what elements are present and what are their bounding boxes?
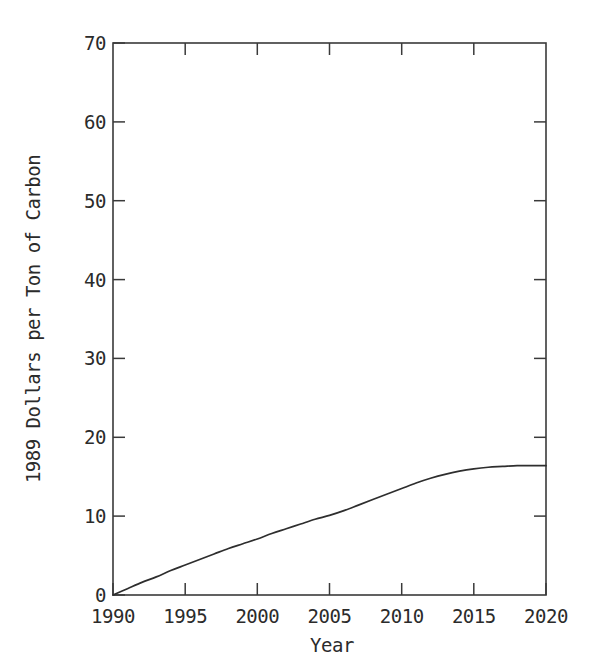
x-tick-label: 2015: [452, 605, 496, 627]
x-axis-top-ticks: [185, 43, 474, 55]
y-tick-label: 0: [95, 584, 106, 606]
y-tick-label: 60: [84, 111, 106, 133]
y-tick-labels: 0 10 20 30 40 50 60 70: [84, 32, 106, 606]
y-tick-label: 70: [84, 32, 106, 54]
x-tick-label: 1995: [163, 605, 207, 627]
data-series-line: [113, 466, 546, 595]
y-axis-right-ticks: [534, 122, 546, 516]
y-tick-label: 10: [84, 505, 106, 527]
x-tick-label: 2000: [235, 605, 279, 627]
x-axis-title: Year: [310, 634, 354, 656]
x-tick-labels: 1990 1995 2000 2005 2010 2015 2020: [91, 605, 568, 627]
plot-frame: [113, 43, 546, 595]
y-tick-label: 30: [84, 347, 106, 369]
y-axis-title: 1989 Dollars per Ton of Carbon: [22, 155, 44, 483]
y-tick-label: 40: [84, 269, 106, 291]
x-tick-label: 2005: [308, 605, 352, 627]
y-axis-major-ticks: [113, 43, 125, 595]
chart-figure: 0 10 20 30 40 50 60 70 1990 1995 2000 20…: [0, 0, 602, 670]
x-tick-label: 2020: [524, 605, 568, 627]
y-tick-label: 50: [84, 190, 106, 212]
y-tick-label: 20: [84, 426, 106, 448]
x-axis-major-ticks: [113, 583, 546, 595]
x-tick-label: 2010: [380, 605, 424, 627]
x-tick-label: 1990: [91, 605, 135, 627]
chart-svg: 0 10 20 30 40 50 60 70 1990 1995 2000 20…: [0, 0, 602, 670]
